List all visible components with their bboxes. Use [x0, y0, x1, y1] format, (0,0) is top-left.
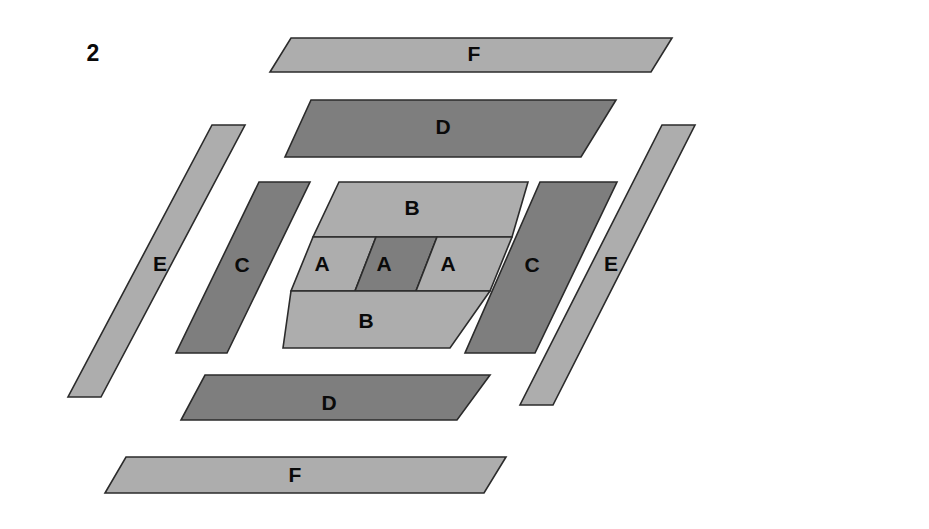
shape-body-f-bottom — [105, 457, 506, 493]
shape-layer: FDECBAAABCEDF — [68, 38, 695, 493]
shape-f-bottom: F — [105, 457, 506, 493]
shape-label-c-left: C — [234, 253, 249, 276]
shape-f-top: F — [270, 38, 672, 72]
shape-label-e-right: E — [604, 252, 618, 275]
nested-parallelogram-diagram: FDECBAAABCEDF 2 — [0, 0, 929, 529]
panel-number-label: 2 — [87, 40, 100, 66]
shape-d-bottom: D — [181, 375, 490, 420]
shape-label-a-right: A — [440, 252, 455, 275]
shape-d-top: D — [285, 100, 616, 157]
shape-body-b-bottom — [283, 291, 490, 348]
shape-b-top: B — [313, 182, 528, 237]
shape-label-c-right: C — [524, 253, 539, 276]
shape-body-b-top — [313, 182, 528, 237]
shape-label-d-bottom: D — [321, 391, 336, 414]
shape-label-d-top: D — [435, 115, 450, 138]
shape-e-left: E — [68, 125, 245, 397]
shape-label-e-left: E — [153, 252, 167, 275]
shape-label-f-bottom: F — [289, 463, 302, 486]
shape-b-bottom: B — [283, 291, 490, 348]
shape-label-a-left: A — [314, 252, 329, 275]
shape-label-b-bottom: B — [358, 309, 373, 332]
shape-label-b-top: B — [404, 196, 419, 219]
shape-label-a-middle: A — [376, 252, 391, 275]
figure-canvas: FDECBAAABCEDF 2 — [0, 0, 929, 529]
shape-label-f-top: F — [468, 42, 481, 65]
